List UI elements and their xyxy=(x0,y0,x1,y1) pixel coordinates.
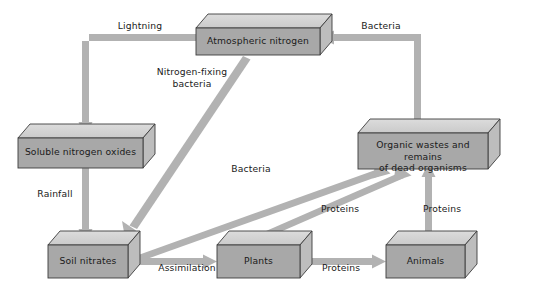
arrow-lightning xyxy=(79,34,197,136)
node-plants[interactable] xyxy=(217,231,312,278)
arrow-proteins-plants-animals xyxy=(302,255,386,269)
node-soluble-nitrogen-oxides[interactable] xyxy=(18,124,155,168)
nitrogen-cycle-diagram: Atmospheric nitrogen Soluble nitrogen ox… xyxy=(0,0,534,291)
arrow-bacteria-denitrification xyxy=(320,31,421,134)
node-animals[interactable] xyxy=(386,231,477,278)
diagram-canvas xyxy=(0,0,534,291)
node-atmospheric-nitrogen[interactable] xyxy=(196,14,332,55)
node-organic-wastes[interactable] xyxy=(358,119,500,169)
node-soil-nitrates[interactable] xyxy=(48,231,140,278)
